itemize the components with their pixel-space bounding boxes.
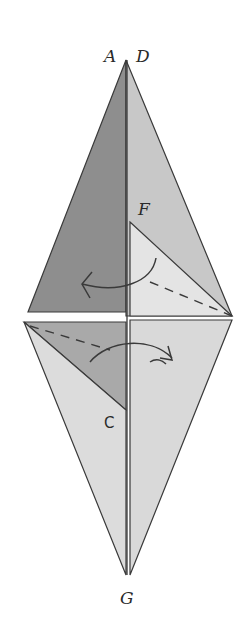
label-a: A (102, 46, 116, 66)
label-d: D (135, 46, 150, 66)
upper-left-dark-face (28, 60, 126, 312)
label-c: C (104, 414, 114, 432)
lower-right-face (130, 320, 232, 575)
label-f: F (137, 199, 151, 219)
origami-diagram: A D F C G (0, 0, 249, 632)
label-g: G (120, 588, 134, 608)
